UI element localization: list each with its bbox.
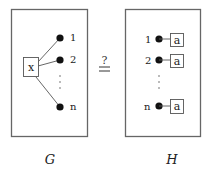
- h-node-label-n: a: [174, 100, 181, 113]
- leaf-dot-1: [56, 34, 63, 41]
- h-node-label-1: a: [174, 34, 181, 47]
- edge-x-1: [38, 38, 60, 62]
- leaf-dot-2: [56, 56, 63, 63]
- graph-g-panel: x 1 2 n: [12, 10, 88, 137]
- leaf-label-2: 2: [70, 54, 76, 65]
- h-row-2: 2 a: [145, 55, 184, 68]
- leaf-label-1: 1: [70, 32, 76, 43]
- center-node-label: x: [28, 61, 35, 74]
- h-index-n: n: [144, 101, 151, 112]
- ellipsis-g: [59, 75, 60, 88]
- edge-x-n: [36, 77, 60, 107]
- h-index-1: 1: [145, 34, 151, 45]
- question-mark: ?: [102, 54, 108, 67]
- h-row-n: n a: [144, 100, 184, 114]
- questioned-equals-symbol: ?: [99, 54, 110, 71]
- h-row-1: 1 a: [145, 34, 184, 47]
- diagram-canvas: x 1 2 n ? 1 a 2: [0, 0, 211, 176]
- leaf-dot-n: [56, 103, 63, 110]
- leaf-label-n: n: [70, 101, 77, 112]
- ellipsis-h: [158, 75, 159, 88]
- h-node-label-2: a: [174, 55, 181, 68]
- caption-h: H: [165, 152, 178, 167]
- graph-g-frame: [12, 10, 88, 137]
- caption-g: G: [45, 152, 55, 167]
- graph-h-panel: 1 a 2 a n a: [126, 10, 201, 137]
- h-index-2: 2: [145, 55, 151, 66]
- graph-h-frame: [126, 10, 201, 137]
